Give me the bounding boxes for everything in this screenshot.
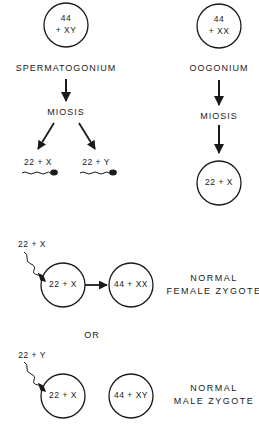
result-line1: NORMAL bbox=[166, 272, 259, 285]
sperm-y-head bbox=[110, 170, 116, 175]
spermatogonium-karyotype: 44 + XY bbox=[56, 13, 77, 37]
sperm-label-male-outcome: 22 + Y bbox=[18, 350, 46, 362]
arrow-to-x-sperm bbox=[38, 123, 54, 149]
sperm-x-head bbox=[51, 170, 57, 175]
oogonium-karyotype: 44 + XX bbox=[209, 14, 230, 38]
karyotype-line2: + XX bbox=[209, 26, 230, 38]
arrow-to-y-sperm bbox=[79, 123, 95, 149]
karyotype-line1: 44 bbox=[209, 14, 230, 26]
female-result-label: NORMAL FEMALE ZYGOTE bbox=[166, 272, 259, 298]
result-line1: NORMAL bbox=[174, 382, 255, 395]
result-line2: MALE ZYGOTE bbox=[174, 395, 255, 408]
miosis-label-female: MIOSIS bbox=[200, 112, 238, 122]
karyotype-line2: + XY bbox=[56, 25, 77, 37]
male-result-label: NORMAL MALE ZYGOTE bbox=[174, 382, 255, 408]
gamete-y-label: 22 + Y bbox=[82, 157, 110, 169]
ovum-label: 22 + X bbox=[205, 177, 233, 189]
egg-label-male-outcome: 22 + X bbox=[49, 390, 77, 402]
spermatogonium-label: SPERMATOGONIUM bbox=[16, 64, 117, 74]
gamete-x-label: 22 + X bbox=[24, 157, 52, 169]
male-zygote-label: 44 + XY bbox=[114, 390, 148, 402]
result-line2: FEMALE ZYGOTE bbox=[166, 285, 259, 298]
sperm-x-tail bbox=[22, 172, 50, 174]
female-zygote-label: 44 + XX bbox=[114, 279, 148, 291]
sperm-label-female-outcome: 22 + X bbox=[18, 239, 46, 251]
karyotype-line1: 44 bbox=[56, 13, 77, 25]
egg-label-female-outcome: 22 + X bbox=[49, 279, 77, 291]
or-separator: OR bbox=[84, 331, 100, 341]
oogonium-label: OOGONIUM bbox=[190, 64, 249, 74]
miosis-label-male: MIOSIS bbox=[47, 108, 85, 118]
sperm-y-tail bbox=[80, 172, 109, 174]
